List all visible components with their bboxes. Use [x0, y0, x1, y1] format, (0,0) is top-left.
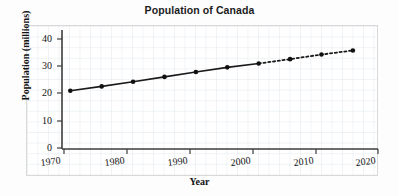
- y-tick-label-30: 30: [30, 60, 52, 71]
- y-tick-label-0: 0: [30, 142, 52, 153]
- y-tick-label-20: 20: [30, 87, 52, 98]
- data-point-2001: [256, 61, 261, 66]
- chart-plot-svg: [0, 0, 399, 196]
- data-point-1991: [194, 70, 199, 75]
- data-point-2006: [288, 57, 293, 62]
- data-point-2011: [319, 52, 324, 57]
- chart-figure: Population of Canada: [0, 0, 399, 196]
- data-point-1976: [99, 84, 104, 89]
- y-tick-label-10: 10: [30, 115, 52, 126]
- x-axis-title: Year: [0, 176, 399, 187]
- y-tick-label-40: 40: [30, 33, 52, 44]
- data-point-1971: [68, 88, 73, 93]
- data-point-markers: [68, 48, 355, 93]
- data-point-1981: [131, 79, 136, 84]
- data-point-1996: [225, 65, 230, 70]
- data-point-2016: [351, 48, 356, 53]
- data-line-projected: [259, 50, 353, 63]
- data-point-1986: [162, 75, 167, 80]
- y-axis-title: Population (millions): [20, 0, 31, 121]
